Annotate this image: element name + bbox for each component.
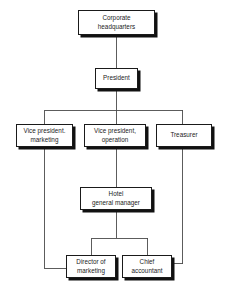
node-director-of-marketing-label: Director of marketing <box>69 258 113 274</box>
node-vice-president-marketing-label: Vice president. marketing <box>19 127 70 143</box>
node-hotel-general-manager[interactable]: Hotel general manager <box>80 187 152 210</box>
node-vice-president-operation-label: Vice president, operation <box>87 127 143 143</box>
node-director-of-marketing[interactable]: Director of marketing <box>66 255 116 278</box>
node-vice-president-operation[interactable]: Vice president, operation <box>84 124 146 147</box>
node-chief-accountant[interactable]: Chief accountant <box>122 255 172 278</box>
node-treasurer[interactable]: Treasurer <box>156 124 212 147</box>
node-president-label: President <box>98 74 135 82</box>
node-treasurer-label: Treasurer <box>159 131 209 139</box>
node-vice-president-marketing[interactable]: Vice president. marketing <box>16 124 73 147</box>
node-chief-accountant-label: Chief accountant <box>125 258 169 274</box>
node-corporate-headquarters[interactable]: Corporate headquarters <box>78 10 155 35</box>
edge-vp-marketing-to-director-marketing <box>45 147 67 269</box>
node-hotel-general-manager-label: Hotel general manager <box>83 190 149 206</box>
node-corporate-headquarters-label: Corporate headquarters <box>81 14 152 30</box>
edge-treasurer-to-chief-accountant <box>172 147 183 264</box>
node-president[interactable]: President <box>95 68 138 89</box>
org-chart-canvas: Corporate headquarters President Vice pr… <box>0 0 227 290</box>
